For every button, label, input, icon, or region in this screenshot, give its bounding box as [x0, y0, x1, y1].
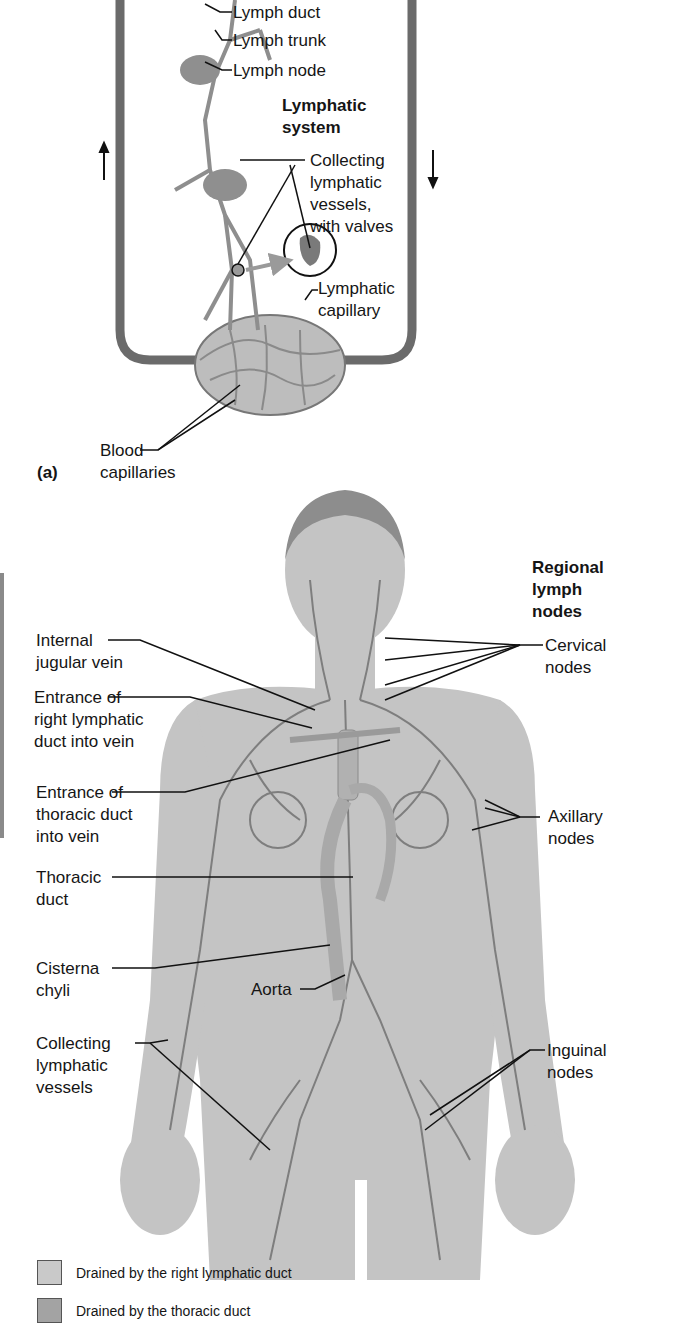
- label-right-duct-entrance-2: right lymphatic: [34, 709, 144, 730]
- label-collecting-lymphatic-1: Collecting: [36, 1033, 111, 1054]
- label-thoracic-entrance-2: thoracic duct: [36, 804, 132, 825]
- label-inguinal-nodes-2: nodes: [547, 1062, 593, 1083]
- legend-label: Drained by the thoracic duct: [76, 1303, 250, 1319]
- label-right-duct-entrance-3: duct into vein: [34, 731, 134, 752]
- label-aorta: Aorta: [251, 979, 292, 1000]
- label-axillary-nodes-1: Axillary: [548, 806, 603, 827]
- label-axillary-nodes-2: nodes: [548, 828, 594, 849]
- label-collecting-lymphatic-3: vessels: [36, 1077, 93, 1098]
- regional-title-3: nodes: [532, 601, 582, 622]
- legend-item-thoracic-duct: Drained by the thoracic duct: [37, 1298, 250, 1323]
- side-bar: [0, 573, 4, 838]
- right-hand: [120, 1125, 200, 1235]
- label-cisterna-chyli-1: Cisterna: [36, 958, 99, 979]
- legend-item-right-duct: Drained by the right lymphatic duct: [37, 1260, 292, 1285]
- label-collecting-lymphatic-2: lymphatic: [36, 1055, 108, 1076]
- label-thoracic-duct-2: duct: [36, 889, 68, 910]
- legend-label: Drained by the right lymphatic duct: [76, 1265, 292, 1281]
- label-thoracic-duct-1: Thoracic: [36, 867, 101, 888]
- label-internal-jugular-1: Internal: [36, 630, 93, 651]
- label-thoracic-entrance-3: into vein: [36, 826, 99, 847]
- label-right-duct-entrance-1: Entrance of: [34, 687, 121, 708]
- label-cervical-nodes-1: Cervical: [545, 635, 606, 656]
- legend-swatch-light: [37, 1260, 62, 1285]
- regional-title-1: Regional: [532, 557, 604, 578]
- regional-title-2: lymph: [532, 579, 582, 600]
- label-thoracic-entrance-1: Entrance of: [36, 782, 123, 803]
- label-internal-jugular-2: jugular vein: [36, 652, 123, 673]
- label-inguinal-nodes-1: Inguinal: [547, 1040, 607, 1061]
- legend-swatch-dark: [37, 1298, 62, 1323]
- label-cervical-nodes-2: nodes: [545, 657, 591, 678]
- label-cisterna-chyli-2: chyli: [36, 980, 70, 1001]
- left-hand: [495, 1125, 575, 1235]
